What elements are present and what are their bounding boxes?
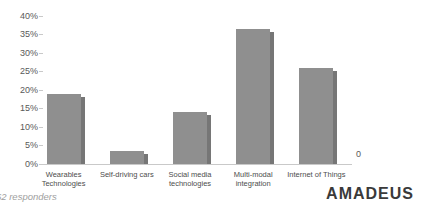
bar-internet-of-things: [299, 68, 333, 164]
y-tick-0: 0%: [0, 159, 38, 169]
y-tick-mark: [39, 90, 43, 91]
amadeus-logo: amadeus: [326, 179, 414, 203]
bar-wearables-technologies: [47, 94, 81, 164]
y-tick-5: 5%: [0, 140, 38, 150]
y-tick-mark: [39, 108, 43, 109]
x-axis-line: [42, 164, 352, 165]
bar-chart: 40%35%30%25%20%15%10%5%0% 0 Wearables Te…: [0, 0, 422, 206]
responders-note: 62 responders: [0, 191, 57, 202]
bar-self-driving-cars: [110, 151, 144, 164]
bar-multi-modal-integration: [236, 29, 270, 164]
y-tick-25: 25%: [0, 66, 38, 76]
y-tick-mark: [39, 16, 43, 17]
y-tick-mark: [39, 53, 43, 54]
y-tick-mark: [39, 145, 43, 146]
y-tick-mark: [39, 34, 43, 35]
bar-social-media-technologies: [173, 112, 207, 164]
right-axis-zero-label: 0: [356, 149, 361, 159]
y-tick-10: 10%: [0, 122, 38, 132]
y-tick-mark: [39, 127, 43, 128]
y-tick-15: 15%: [0, 103, 38, 113]
y-tick-20: 20%: [0, 85, 38, 95]
y-tick-40: 40%: [0, 11, 38, 21]
y-tick-35: 35%: [0, 29, 38, 39]
y-tick-30: 30%: [0, 48, 38, 58]
y-tick-mark: [39, 71, 43, 72]
